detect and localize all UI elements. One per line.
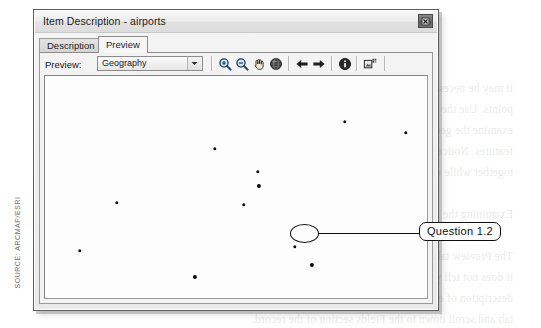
- pan-hand-icon[interactable]: [251, 56, 267, 72]
- map-point-feature[interactable]: [256, 170, 259, 173]
- toolbar-separator: [356, 56, 358, 71]
- map-preview-canvas[interactable]: [44, 75, 428, 299]
- highlight-ellipse: [290, 224, 319, 243]
- full-extent-globe-icon[interactable]: [268, 56, 284, 72]
- window-titlebar[interactable]: Item Description - airports: [35, 11, 437, 33]
- window-title: Item Description - airports: [43, 15, 166, 27]
- forward-arrow-icon[interactable]: [311, 56, 327, 72]
- map-point-feature[interactable]: [404, 131, 407, 134]
- map-point-feature[interactable]: [343, 120, 346, 123]
- zoom-out-icon[interactable]: [234, 56, 250, 72]
- back-arrow-icon[interactable]: [294, 56, 310, 72]
- window-inner-frame: Item Description - airports Description …: [34, 10, 438, 310]
- item-description-window: Item Description - airports Description …: [33, 9, 439, 311]
- toolbar-separator: [211, 56, 213, 71]
- map-point-feature[interactable]: [242, 203, 245, 206]
- close-icon[interactable]: [418, 14, 433, 28]
- map-point-feature[interactable]: [213, 147, 216, 150]
- map-point-layer[interactable]: [45, 76, 427, 298]
- map-point-feature[interactable]: [293, 245, 296, 248]
- chevron-down-icon[interactable]: [187, 57, 201, 70]
- map-point-feature[interactable]: [115, 201, 118, 204]
- tab-description[interactable]: Description: [39, 38, 103, 53]
- preview-toolbar: Preview: Geography: [40, 53, 432, 74]
- identify-info-icon[interactable]: [337, 56, 353, 72]
- map-point-feature[interactable]: [257, 184, 261, 188]
- zoom-in-icon[interactable]: [217, 56, 233, 72]
- preview-type-value: Geography: [102, 58, 147, 68]
- toolbar-separator: [331, 56, 333, 71]
- question-callout-label: Question 1.2: [419, 222, 501, 241]
- source-credit: SOURCE: ARCMAP/ESRI: [14, 195, 21, 291]
- map-point-feature[interactable]: [78, 249, 81, 252]
- create-thumbnail-icon[interactable]: [362, 56, 378, 72]
- preview-type-dropdown[interactable]: Geography: [97, 56, 203, 71]
- map-point-feature[interactable]: [310, 263, 314, 267]
- toolbar-separator: [384, 56, 386, 71]
- toolbar-separator: [288, 56, 290, 71]
- tab-strip: Description Preview: [39, 36, 433, 53]
- tab-preview[interactable]: Preview: [98, 36, 148, 53]
- preview-panel: Preview: Geography: [39, 52, 433, 304]
- map-point-feature[interactable]: [193, 275, 197, 279]
- preview-label: Preview:: [45, 59, 81, 70]
